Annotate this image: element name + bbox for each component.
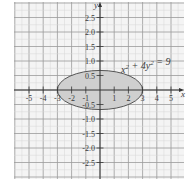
ellipse-graph: -5-4-3-2-1123452.52.01.51.00.5-0.5-1.0-1… xyxy=(0,0,194,189)
x-tick-label: 2 xyxy=(126,94,130,103)
y-tick-label: 2.5 xyxy=(85,14,95,23)
x-tick-label: -3 xyxy=(54,94,61,103)
x-tick-label: -4 xyxy=(40,94,47,103)
x-axis-label: x xyxy=(180,89,185,99)
y-tick-label: 2.0 xyxy=(85,28,95,37)
y-tick-label: -2.0 xyxy=(82,144,95,153)
x-tick-label: 5 xyxy=(169,94,173,103)
x-tick-label: 3 xyxy=(141,94,145,103)
x-tick-label: -5 xyxy=(26,94,33,103)
x-tick-label: 1 xyxy=(112,94,116,103)
x-tick-label: -2 xyxy=(68,94,75,103)
y-tick-label: -1.0 xyxy=(82,115,95,124)
y-tick-label: 1.0 xyxy=(85,57,95,66)
y-tick-label: -1.5 xyxy=(82,130,95,139)
y-tick-label: -2.5 xyxy=(82,159,95,168)
y-tick-label: 0.5 xyxy=(85,72,95,81)
y-tick-label: 1.5 xyxy=(85,43,95,52)
graph-canvas: -5-4-3-2-1123452.52.01.51.00.5-0.5-1.0-1… xyxy=(0,0,194,189)
x-tick-label: 4 xyxy=(155,94,159,103)
y-tick-label: -0.5 xyxy=(82,101,95,110)
y-axis-label: y xyxy=(93,0,98,10)
